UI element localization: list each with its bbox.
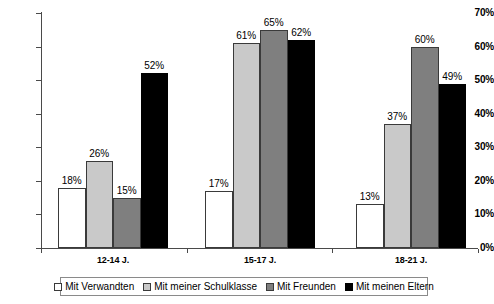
x-axis-tick-mark (41, 249, 42, 253)
bar-chart: 0%10%20%30%40%50%60%70% 18%26%15%52%17%6… (0, 0, 494, 304)
legend-label: Mit Freunden (277, 281, 336, 292)
bar-value-label: 61% (229, 30, 265, 41)
legend-swatch-icon (143, 283, 151, 291)
bar-value-label: 60% (407, 34, 443, 45)
bar-value-label: 17% (201, 178, 237, 189)
x-axis-tick-mark (478, 249, 479, 253)
bar (205, 191, 233, 248)
plot-area (41, 13, 478, 248)
legend-swatch-icon (54, 283, 62, 291)
legend-swatch-icon (266, 283, 274, 291)
bar (58, 188, 86, 248)
bar (86, 161, 114, 248)
x-axis-tick-mark (187, 249, 188, 253)
legend-label: Mit Verwandten (65, 281, 134, 292)
legend-item[interactable]: Mit meiner Schulklasse (143, 281, 257, 292)
legend-label: Mit meiner Schulklasse (154, 281, 257, 292)
bar (288, 40, 316, 248)
bar (356, 204, 384, 248)
bar-value-label: 26% (82, 148, 118, 159)
x-axis-tick-mark (332, 249, 333, 253)
bar (233, 43, 261, 248)
x-axis-line (41, 248, 478, 249)
legend-label: Mit meinen Eltern (356, 281, 434, 292)
category-label: 18-21 J. (371, 255, 451, 265)
legend-item[interactable]: Mit meinen Eltern (345, 281, 434, 292)
category-label: 12-14 J. (73, 255, 153, 265)
bar-value-label: 49% (435, 71, 471, 82)
bar-value-label: 52% (137, 60, 173, 71)
bar-value-label: 13% (352, 191, 388, 202)
bar (439, 84, 467, 249)
bar-value-label: 37% (380, 111, 416, 122)
legend-item[interactable]: Mit Verwandten (54, 281, 134, 292)
bar (384, 124, 412, 248)
bar-value-label: 15% (109, 185, 145, 196)
bar (141, 73, 169, 248)
category-label: 15-17 J. (220, 255, 300, 265)
bar-value-label: 62% (284, 27, 320, 38)
bar (260, 30, 288, 248)
bar-value-label: 18% (54, 175, 90, 186)
legend-item[interactable]: Mit Freunden (266, 281, 336, 292)
chart-legend: Mit VerwandtenMit meiner SchulklasseMit … (60, 277, 428, 296)
legend-swatch-icon (345, 283, 353, 291)
bar (113, 198, 141, 248)
